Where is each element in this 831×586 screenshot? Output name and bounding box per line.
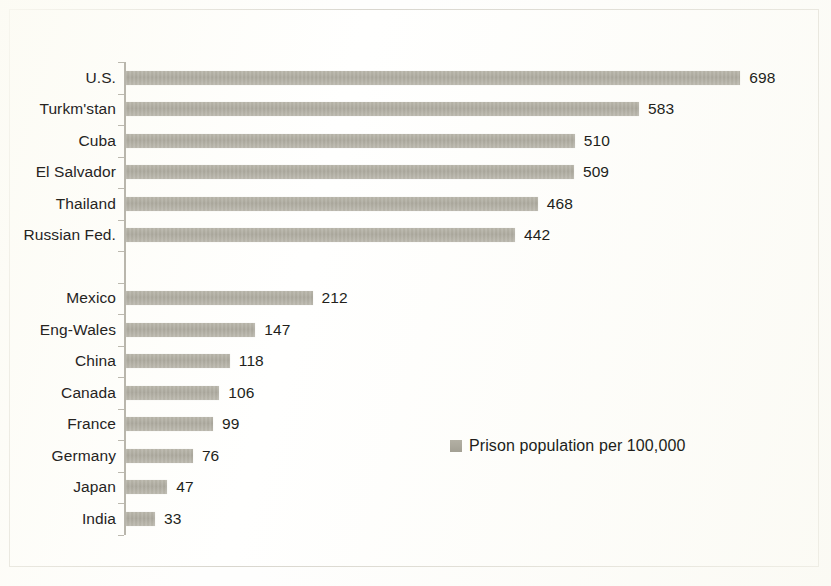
bar-with-value: 33	[126, 512, 181, 526]
axis-tick-mark	[118, 188, 124, 189]
bar-with-value: 106	[126, 386, 254, 400]
bar-value-label: 583	[648, 100, 674, 118]
bar-with-value: 99	[126, 417, 240, 431]
bar-with-value: 147	[126, 323, 291, 337]
category-label: Canada	[61, 384, 116, 402]
chart-legend: Prison population per 100,000	[450, 437, 685, 455]
bar	[126, 417, 213, 431]
bar-row: Canada106	[0, 377, 831, 409]
category-label: U.S.	[85, 69, 116, 87]
category-label: El Salvador	[36, 163, 116, 181]
category-label: France	[67, 415, 116, 433]
axis-tick-mark	[118, 283, 124, 284]
category-label: Germany	[52, 447, 116, 465]
bar-value-label: 468	[547, 195, 573, 213]
bar	[126, 102, 639, 116]
bar-value-label: 442	[524, 226, 550, 244]
bar-value-label: 33	[164, 510, 181, 528]
bar-row: Cuba510	[0, 125, 831, 157]
axis-tick-mark	[118, 472, 124, 473]
bar-value-label: 212	[322, 289, 348, 307]
bar-row: India33	[0, 503, 831, 535]
category-label: Eng-Wales	[40, 321, 116, 339]
bar-row: China118	[0, 346, 831, 378]
bar-value-label: 509	[583, 163, 609, 181]
bar-with-value: 442	[126, 228, 550, 242]
bar-row-spacer	[0, 251, 831, 283]
axis-tick-mark	[118, 62, 124, 63]
axis-tick-mark	[118, 157, 124, 158]
category-label: Japan	[73, 478, 116, 496]
bar-row: Turkm'stan583	[0, 94, 831, 126]
axis-tick-mark	[118, 125, 124, 126]
bar	[126, 323, 255, 337]
bar-row: Eng-Wales147	[0, 314, 831, 346]
bar-chart-plot-area: U.S.698Turkm'stan583Cuba510El Salvador50…	[0, 0, 831, 586]
bar-row: U.S.698	[0, 62, 831, 94]
bar	[126, 512, 155, 526]
axis-tick-mark	[118, 377, 124, 378]
bar-with-value: 698	[126, 71, 775, 85]
axis-tick-mark	[118, 220, 124, 221]
axis-tick-mark	[118, 440, 124, 441]
bar-row: Japan47	[0, 472, 831, 504]
bar-value-label: 47	[176, 478, 193, 496]
bar-row: France99	[0, 409, 831, 441]
bar	[126, 165, 574, 179]
category-label: Russian Fed.	[23, 226, 116, 244]
axis-tick-mark	[118, 409, 124, 410]
bar	[126, 449, 193, 463]
axis-tick-mark	[118, 346, 124, 347]
axis-tick-mark	[118, 251, 124, 252]
bar-value-label: 106	[228, 384, 254, 402]
legend-label: Prison population per 100,000	[469, 437, 685, 455]
category-label: Thailand	[56, 195, 116, 213]
category-label: Mexico	[66, 289, 116, 307]
figure-root: U.S.698Turkm'stan583Cuba510El Salvador50…	[0, 0, 831, 586]
bar	[126, 480, 167, 494]
bar-value-label: 76	[202, 447, 219, 465]
bar-with-value: 47	[126, 480, 194, 494]
bar-row: Thailand468	[0, 188, 831, 220]
category-label: Cuba	[79, 132, 116, 150]
bar-with-value: 76	[126, 449, 219, 463]
bar-row: Russian Fed.442	[0, 220, 831, 252]
bar-value-label: 698	[749, 69, 775, 87]
bar-value-label: 510	[584, 132, 610, 150]
bar-with-value: 510	[126, 134, 610, 148]
bar-value-label: 118	[239, 352, 264, 370]
bar	[126, 354, 230, 368]
bar	[126, 291, 313, 305]
legend-swatch-icon	[450, 440, 462, 452]
bar-row: Mexico212	[0, 283, 831, 315]
bar-row: El Salvador509	[0, 157, 831, 189]
axis-tick-mark	[118, 94, 124, 95]
category-label: China	[75, 352, 116, 370]
bar-row: Germany76	[0, 440, 831, 472]
bar	[126, 386, 219, 400]
axis-tick-mark	[118, 314, 124, 315]
bar-value-label: 99	[222, 415, 239, 433]
bar-with-value: 583	[126, 102, 674, 116]
bar	[126, 71, 740, 85]
category-label: Turkm'stan	[39, 100, 116, 118]
bar	[126, 134, 575, 148]
bar-with-value: 509	[126, 165, 609, 179]
axis-end-row	[0, 535, 831, 567]
bar-with-value: 212	[126, 291, 348, 305]
bar-with-value: 118	[126, 354, 264, 368]
axis-tick-mark	[118, 503, 124, 504]
bar	[126, 228, 515, 242]
bar	[126, 197, 538, 211]
category-label: India	[82, 510, 116, 528]
axis-tick-mark	[118, 535, 124, 536]
bar-value-label: 147	[264, 321, 290, 339]
bar-with-value: 468	[126, 197, 573, 211]
